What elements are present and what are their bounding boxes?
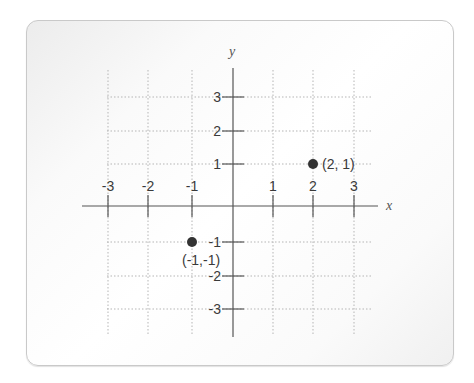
y-tick-label: 1 bbox=[213, 156, 221, 172]
point-label: (2, 1) bbox=[322, 156, 355, 172]
y-tick-label: 2 bbox=[213, 123, 221, 139]
x-tick-label: 3 bbox=[350, 178, 358, 194]
x-tick-label: 1 bbox=[269, 178, 277, 194]
point-label: (-1,-1) bbox=[182, 252, 220, 268]
x-tick-label: -3 bbox=[102, 178, 115, 194]
data-point bbox=[187, 237, 197, 247]
y-tick-label: -3 bbox=[209, 301, 222, 317]
x-tick-label: -1 bbox=[186, 178, 199, 194]
y-tick-label: 3 bbox=[213, 89, 221, 105]
data-point bbox=[308, 159, 318, 169]
data-points: (2, 1)(-1,-1) bbox=[182, 156, 355, 268]
y-axis-label: y bbox=[227, 44, 236, 59]
x-tick-label: -2 bbox=[142, 178, 155, 194]
tick-marks: -3-2-1123321-1-2-3 bbox=[102, 89, 358, 317]
coordinate-plane: x y -3-2-1123321-1-2-3 (2, 1)(-1,-1) bbox=[0, 0, 474, 383]
y-tick-label: -2 bbox=[209, 268, 222, 284]
x-tick-label: 2 bbox=[309, 178, 317, 194]
grid-lines bbox=[107, 70, 373, 335]
x-axis-label: x bbox=[385, 198, 393, 213]
y-tick-label: -1 bbox=[209, 234, 222, 250]
axes: x y bbox=[82, 44, 393, 337]
